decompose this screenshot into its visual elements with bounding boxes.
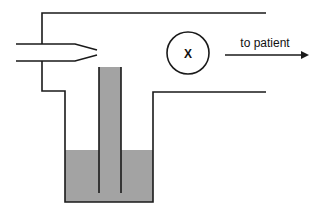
arrow-head-icon xyxy=(301,51,309,59)
outlet-label: to patient xyxy=(240,36,290,50)
nozzle-bottom xyxy=(16,55,97,61)
nozzle-top xyxy=(16,44,97,50)
chamber-top-wall xyxy=(42,13,266,44)
device-x-label: X xyxy=(184,47,192,61)
dip-tube-liquid xyxy=(99,67,121,193)
apparatus-diagram: X to patient xyxy=(0,0,323,215)
